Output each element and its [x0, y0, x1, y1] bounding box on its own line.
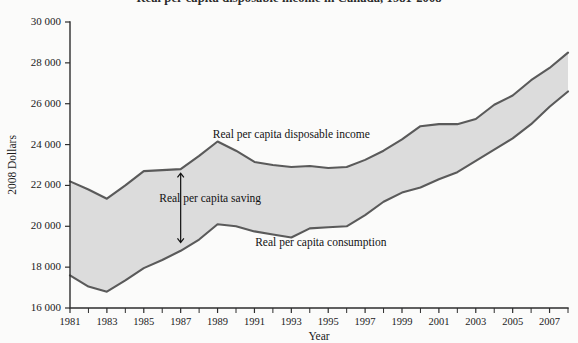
y-axis-title: 2008 Dollars [6, 135, 18, 195]
annotation-consumption: Real per capita consumption [255, 236, 387, 249]
x-axis-ticks [70, 308, 568, 313]
x-tick-label-1999: 1999 [392, 316, 413, 327]
y-tick-label-26000: 26 000 [31, 97, 62, 109]
chart-figure: Real per capita disposable income in Can… [0, 0, 578, 343]
x-tick-label-1983: 1983 [96, 316, 117, 327]
y-tick-label-28000: 28 000 [31, 56, 62, 68]
band-and-series [70, 53, 568, 292]
y-tick-label-16000: 16 000 [31, 301, 62, 313]
x-axis-title: Year [308, 330, 329, 342]
x-tick-label-2007: 2007 [539, 316, 560, 327]
x-tick-label-1997: 1997 [355, 316, 376, 327]
chart-plot-area: 16 00018 00020 00022 00024 00026 00028 0… [0, 0, 578, 343]
x-tick-label-2003: 2003 [465, 316, 486, 327]
annotation-saving: Real per capita saving [159, 192, 261, 205]
x-tick-label-1981: 1981 [60, 316, 81, 327]
x-tick-label-2005: 2005 [502, 316, 523, 327]
x-tick-label-1993: 1993 [281, 316, 302, 327]
y-tick-label-30000: 30 000 [31, 15, 62, 27]
y-axis-tick-labels: 16 00018 00020 00022 00024 00026 00028 0… [31, 15, 62, 313]
x-axis-tick-labels: 1981198319851987198919911993199519971999… [60, 316, 561, 327]
x-tick-label-1987: 1987 [170, 316, 191, 327]
x-tick-label-1985: 1985 [133, 316, 154, 327]
annotation-disposable-income: Real per capita disposable income [213, 128, 370, 141]
x-tick-label-1995: 1995 [318, 316, 339, 327]
x-tick-label-1989: 1989 [207, 316, 228, 327]
y-tick-label-24000: 24 000 [31, 138, 62, 150]
saving-band-area [70, 53, 568, 292]
x-tick-label-2001: 2001 [428, 316, 449, 327]
y-tick-label-20000: 20 000 [31, 219, 62, 231]
y-tick-label-18000: 18 000 [31, 260, 62, 272]
x-tick-label-1991: 1991 [244, 316, 265, 327]
y-tick-label-22000: 22 000 [31, 178, 62, 190]
y-axis-ticks [65, 22, 70, 308]
